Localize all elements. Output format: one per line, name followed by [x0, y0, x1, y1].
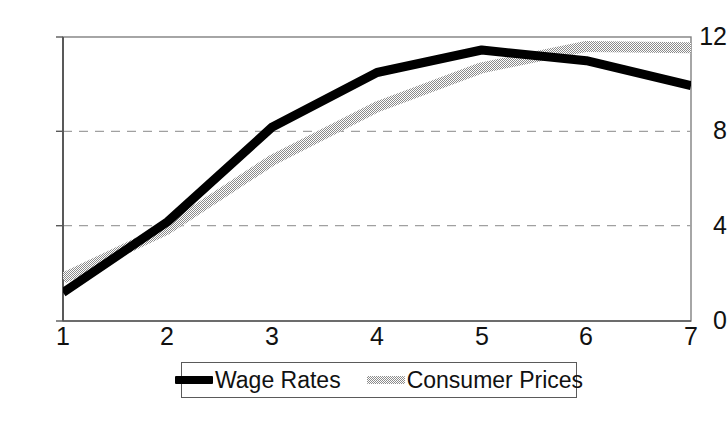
x-axis-tick-label-6: 6	[566, 324, 606, 349]
legend-item-consumer-prices: Consumer Prices	[367, 369, 583, 392]
x-axis-tick-label-5: 5	[462, 324, 502, 349]
y-axis-tick-label-8: 8	[681, 118, 727, 143]
plot-frame	[63, 37, 691, 321]
legend-item-wage-rates: Wage Rates	[175, 369, 341, 392]
x-axis-tick-label-1: 1	[43, 324, 83, 349]
legend-label-consumer-prices: Consumer Prices	[407, 369, 583, 392]
legend-swatch-line-icon-wage-rates	[175, 376, 213, 384]
x-axis-tick-label-4: 4	[357, 324, 397, 349]
legend-label-wage-rates: Wage Rates	[215, 369, 341, 392]
y-axis-tick-label-12: 12	[681, 24, 727, 49]
legend-swatch-line-icon-consumer-prices	[367, 376, 405, 384]
x-axis-tick-label-3: 3	[252, 324, 292, 349]
y-axis-tick-label-4: 4	[681, 213, 727, 238]
chart-legend: Wage Rates Consumer Prices	[181, 362, 577, 398]
x-axis-tick-label-2: 2	[147, 324, 187, 349]
x-axis-tick-label-7: 7	[671, 324, 711, 349]
line-chart: 12 8 4 0 1 2 3 4 5 6 7 Wage Rates Consum…	[0, 0, 727, 428]
